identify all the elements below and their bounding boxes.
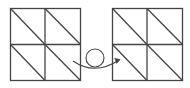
- right-grid: [113, 9, 183, 81]
- left-grid: [11, 9, 81, 81]
- diagram-canvas: [0, 0, 190, 88]
